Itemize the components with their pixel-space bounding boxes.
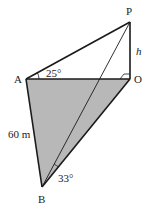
label-o: O xyxy=(134,73,142,85)
label-a: A xyxy=(14,73,22,85)
shaded-triangle-aob xyxy=(26,79,130,187)
label-b: B xyxy=(38,193,45,205)
label-p: P xyxy=(126,5,132,17)
label-angle-b: 33° xyxy=(58,172,73,184)
label-angle-a: 25° xyxy=(46,67,61,79)
angle-arc-a xyxy=(37,73,39,79)
trig-diagram: P O A B h 25° 33° 60 m xyxy=(0,0,151,211)
label-side-ab: 60 m xyxy=(8,128,31,140)
label-height-h: h xyxy=(136,45,142,57)
